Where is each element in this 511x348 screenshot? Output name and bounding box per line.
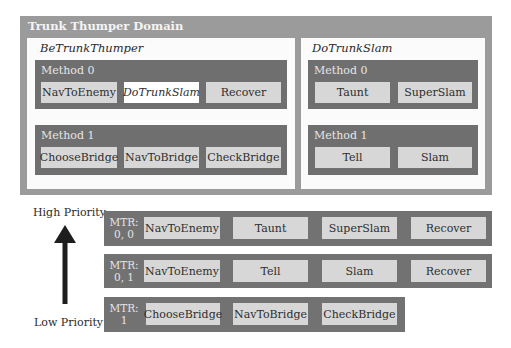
step-taunt[interactable]: Taunt <box>315 82 390 103</box>
step-slam[interactable]: Slam <box>322 260 397 282</box>
step-choosebridge[interactable]: ChooseBridge <box>146 303 220 325</box>
mtr-label: MTR: 0, 1 <box>106 259 142 283</box>
step-recover[interactable]: Recover <box>411 217 486 239</box>
step-navtoenemy[interactable]: NavToEnemy <box>144 217 220 239</box>
step-navtoenemy[interactable]: NavToEnemy <box>41 82 117 103</box>
mtr-label: MTR: 0, 0 <box>106 216 142 240</box>
method-label: Method 0 <box>314 64 367 77</box>
step-dotrunkslam[interactable]: DoTrunkSlam <box>124 82 199 103</box>
step-checkbridge[interactable]: CheckBridge <box>322 303 397 325</box>
step-checkbridge[interactable]: CheckBridge <box>206 147 281 168</box>
method-label: Method 1 <box>41 129 94 142</box>
step-recover[interactable]: Recover <box>206 82 281 103</box>
step-recover[interactable]: Recover <box>411 260 486 282</box>
low-priority-label: Low Priority <box>34 316 103 329</box>
step-slam[interactable]: Slam <box>398 147 472 168</box>
step-navtobridge[interactable]: NavToBridge <box>233 303 308 325</box>
step-navtobridge[interactable]: NavToBridge <box>124 147 199 168</box>
up-arrow-icon <box>50 222 80 306</box>
task-title: DoTrunkSlam <box>312 41 392 55</box>
method-label: Method 0 <box>41 64 94 77</box>
step-choosebridge[interactable]: ChooseBridge <box>41 147 117 168</box>
step-superslam[interactable]: SuperSlam <box>322 217 397 239</box>
task-title: BeTrunkThumper <box>40 41 143 55</box>
step-tell[interactable]: Tell <box>233 260 308 282</box>
step-tell[interactable]: Tell <box>315 147 390 168</box>
method-label: Method 1 <box>314 129 367 142</box>
high-priority-label: High Priority <box>33 206 106 219</box>
mtr-label: MTR: 1 <box>106 302 142 326</box>
domain-title: Trunk Thumper Domain <box>28 19 183 33</box>
step-taunt[interactable]: Taunt <box>233 217 308 239</box>
step-superslam[interactable]: SuperSlam <box>398 82 472 103</box>
step-navtoenemy[interactable]: NavToEnemy <box>144 260 220 282</box>
